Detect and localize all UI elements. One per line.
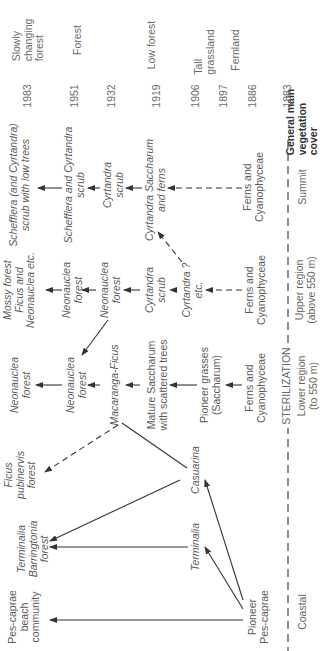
node-mossy-forest: Mossy forest Ficus and Neonauclea etc.: [2, 252, 37, 328]
node-cyrtandra-scrub-summit: Cyrtandra scrub: [102, 162, 125, 208]
region-sterilization: STERILIZATION: [281, 344, 293, 427]
node-schefflera-low-trees: Schefflera (and Cyrtandra) scrub with lo…: [8, 123, 31, 247]
year-1932: 1932: [106, 84, 118, 107]
node-neonauclea-upper-1: Neonauclea forest: [61, 262, 84, 318]
node-ferns-lower: Ferns and Cyanophyceae: [244, 353, 267, 423]
node-pes-caprae-beach: Pes-caprae beach community: [7, 590, 42, 644]
node-mature-saccharum: Mature Saccharum with scattered trees: [146, 339, 169, 430]
node-neonauclea-upper-2: Neonauclea forest: [99, 262, 122, 318]
node-pioneer-pes-caprae: Pioneer Pes-caprae: [247, 590, 270, 644]
cover-tall-grassland: Tall grassland: [193, 29, 216, 75]
node-terminalia: Terminalia: [190, 523, 202, 571]
node-neonauclea-forest-1: Neonauclea forest: [9, 357, 32, 413]
year-1983: 1983: [22, 84, 34, 107]
node-ficus-pubinervis: Ficus pubinervis forest: [3, 451, 38, 499]
node-cyrtandra-scrub-upper: Cyrtandra scrub: [144, 267, 167, 313]
succession-diagram: General main vegetation cover Slowly cha…: [0, 0, 328, 651]
year-1883: 1883: [282, 84, 294, 107]
region-lower: Lower region (to 550 m): [296, 356, 319, 417]
node-ferns-summit: Ferns and Cyanophyceae: [242, 152, 265, 222]
node-neonauclea-forest-2: Neonauclea forest: [65, 357, 88, 413]
node-schefflera-cyrtandra: Schefflera and Cyrtandra scrub: [63, 127, 86, 244]
node-cyrtandra-saccharum-ferns: Cyrtandra Saccharum and ferns: [144, 139, 167, 241]
cover-low-forest: Low forest: [146, 21, 158, 69]
year-1897: 1897: [218, 84, 230, 107]
region-upper: Upper region (above 550 m): [294, 256, 317, 324]
year-1886: 1886: [247, 84, 259, 107]
region-coastal: Coastal: [297, 594, 309, 630]
year-1919: 1919: [151, 84, 163, 107]
node-cyrtandra-question: Cyrtandra ? etc.: [181, 263, 204, 318]
cover-slowly-changing-forest: Slowly changing forest: [11, 19, 46, 62]
year-1951: 1951: [69, 84, 81, 107]
cover-fernland: Fernland: [230, 29, 242, 70]
node-terminalia-barringtonia: Terminalia Barringtonia forest: [16, 521, 51, 578]
node-ferns-upper: Ferns and Cyanophyceae: [244, 255, 267, 325]
cover-forest: Forest: [72, 25, 84, 55]
node-pioneer-grasses: Pioneer grasses (Saccharum): [199, 347, 222, 423]
year-1906: 1906: [190, 84, 202, 107]
region-summit: Summit: [297, 169, 309, 205]
node-casuarina: Casuarina: [190, 446, 202, 494]
node-macaranga-ficus: Macaranga-Ficus: [109, 344, 121, 425]
